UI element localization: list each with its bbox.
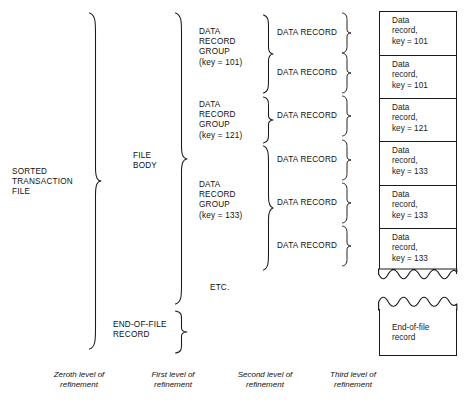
file-record-box-4: Data record, key = 133	[380, 142, 456, 186]
brace-record-4	[341, 139, 352, 181]
data-record-label-2: DATA RECORD	[277, 68, 337, 78]
brace-group-101	[262, 14, 274, 94]
brace-record-5	[341, 182, 352, 224]
brace-file-body	[174, 12, 188, 305]
data-record-group-121-label: DATA RECORD GROUP (key = 121)	[199, 100, 242, 141]
data-record-label-6: DATA RECORD	[277, 241, 337, 251]
brace-record-6	[341, 225, 352, 267]
data-record-group-133-label: DATA RECORD GROUP (key = 133)	[199, 180, 242, 221]
data-record-group-101-label: DATA RECORD GROUP (key = 101)	[199, 27, 242, 68]
file-record-text-4: Data record, key = 133	[392, 146, 428, 177]
file-record-box-6: Data record, key = 133	[380, 229, 456, 274]
brace-record-2	[341, 52, 352, 94]
end-of-file-record-box: End-of-file record	[379, 309, 457, 356]
sorted-transaction-file-label: SORTED TRANSACTION FILE	[12, 167, 73, 198]
brace-level0	[88, 12, 102, 350]
brace-group-121	[262, 96, 274, 144]
data-record-label-5: DATA RECORD	[277, 198, 337, 208]
brace-record-1	[341, 12, 352, 54]
etc-label: ETC.	[210, 283, 229, 293]
file-record-box-1: Data record, key = 101	[380, 12, 456, 56]
file-record-text-6: Data record, key = 133	[392, 233, 428, 264]
torn-edge-bottom-icon	[378, 269, 458, 287]
brace-end-of-file-record	[174, 310, 188, 354]
footer-level-3: Third level of refinement	[288, 370, 418, 390]
file-record-text-2: Data record, key = 101	[392, 60, 428, 91]
brace-record-3	[341, 95, 352, 137]
file-record-text-3: Data record, key = 121	[392, 103, 428, 134]
data-record-label-4: DATA RECORD	[277, 155, 337, 165]
data-record-label-1: DATA RECORD	[277, 28, 337, 38]
file-body-label: FILE BODY	[133, 151, 157, 171]
file-record-text-5: Data record, key = 133	[392, 190, 428, 221]
file-record-box-3: Data record, key = 121	[380, 99, 456, 142]
data-record-label-3: DATA RECORD	[277, 111, 337, 121]
file-record-box-5: Data record, key = 133	[380, 186, 456, 229]
file-record-box-2: Data record, key = 101	[380, 56, 456, 99]
file-record-stack: Data record, key = 101 Data record, key …	[379, 11, 457, 274]
file-record-text-1: Data record, key = 101	[392, 16, 428, 47]
brace-group-133	[262, 145, 274, 271]
end-of-file-record-label: END-OF-FILE RECORD	[113, 320, 167, 340]
end-of-file-record-text: End-of-file record	[392, 323, 429, 344]
